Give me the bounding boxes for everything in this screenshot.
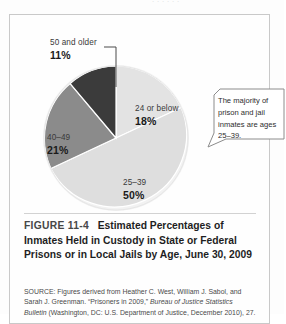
- callout-annotation: The majority of prison and jail inmates …: [206, 87, 286, 149]
- figure-caption: FIGURE 11-4 Estimated Percentages of Inm…: [24, 219, 258, 263]
- pie-label-value: 21%: [47, 144, 70, 156]
- pie-label-value: 11%: [50, 49, 97, 61]
- pie-label-24-or-below: 24 or below 18%: [135, 104, 178, 127]
- pie-label-category: 50 and older: [50, 38, 97, 48]
- pie-chart: 50 and older 11% 24 or below 18% 25–39 5…: [10, 15, 271, 215]
- page-top-text-remnant: · · · · · ·: [152, 0, 238, 7]
- figure-container: 50 and older 11% 24 or below 18% 25–39 5…: [9, 14, 270, 324]
- source-label: SOURCE:: [24, 288, 55, 295]
- figure-source: SOURCE: Figures derived from Heather C. …: [24, 287, 256, 318]
- callout-text: The majority of prison and jail inmates …: [218, 95, 282, 142]
- pie-label-25-39: 25–39 50%: [123, 178, 146, 201]
- pie-label-category: 25–39: [123, 178, 146, 188]
- pie-label-value: 50%: [123, 189, 146, 201]
- pie-label-value: 18%: [135, 115, 178, 127]
- source-text-part2: (Washington, DC: U.S. Department of Just…: [47, 309, 256, 316]
- caption-divider: [24, 213, 256, 214]
- pie-label-category: 24 or below: [135, 104, 178, 114]
- pie-label-category: 40–49: [47, 133, 70, 143]
- pie-label-50-and-older: 50 and older 11%: [50, 38, 97, 61]
- pie-label-40-49: 40–49 21%: [47, 133, 70, 156]
- figure-number: FIGURE 11-4: [24, 220, 89, 231]
